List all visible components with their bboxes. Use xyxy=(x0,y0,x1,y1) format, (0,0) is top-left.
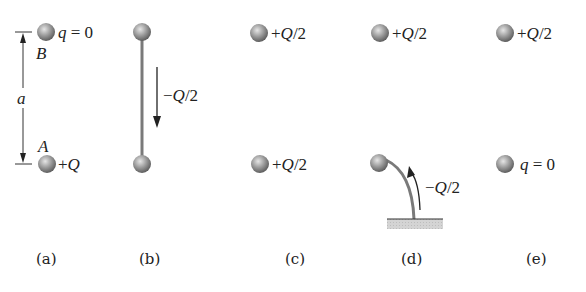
sphere-top-charge: +Q/2 xyxy=(271,24,306,43)
sphere-top xyxy=(496,24,514,42)
sphere-top xyxy=(133,23,151,41)
charge-flow-label: −Q/2 xyxy=(425,178,460,197)
caption-e: (e) xyxy=(526,250,547,268)
sphere-top-charge: +Q/2 xyxy=(517,24,552,43)
sphere-bottom xyxy=(496,155,514,173)
sphere-a-charge: +Q xyxy=(58,155,80,174)
sphere-a-letter: A xyxy=(37,137,49,156)
caption-c: (c) xyxy=(285,250,305,268)
ground-plate xyxy=(387,219,443,229)
dimension-label: a xyxy=(17,89,26,108)
sphere-bottom-charge: q = 0 xyxy=(520,155,555,174)
charge-flow-label: −Q/2 xyxy=(163,86,198,105)
panel-c: +Q/2 +Q/2 (c) xyxy=(250,24,307,268)
sphere-top-charge: +Q/2 xyxy=(392,24,427,43)
sphere-b-letter: B xyxy=(36,44,47,63)
arrow-up-icon xyxy=(20,33,26,43)
caption-a: (a) xyxy=(36,250,57,268)
caption-b: (b) xyxy=(139,250,160,268)
panel-a: a q = 0 B A +Q (a) xyxy=(15,23,93,268)
sphere-b-charge: q = 0 xyxy=(58,23,93,42)
sphere-b xyxy=(37,23,55,41)
dimension-line: a xyxy=(15,32,32,164)
panel-d: +Q/2 −Q/2 (d) xyxy=(370,24,460,268)
arrow-down-icon xyxy=(20,153,26,163)
sphere-bottom xyxy=(370,154,388,172)
sphere-bottom-charge: +Q/2 xyxy=(272,155,307,174)
sphere-bottom xyxy=(133,155,151,173)
arrow-down-icon xyxy=(153,116,161,128)
sphere-top xyxy=(250,24,268,42)
sphere-a xyxy=(38,155,56,173)
caption-d: (d) xyxy=(401,250,422,268)
panel-e: +Q/2 q = 0 (e) xyxy=(496,24,555,268)
sphere-bottom xyxy=(251,155,269,173)
charge-transfer-diagram: a q = 0 B A +Q (a) −Q/2 (b) +Q/2 +Q/2 (c… xyxy=(0,0,586,292)
sphere-top xyxy=(371,24,389,42)
panel-b: −Q/2 (b) xyxy=(133,23,198,268)
